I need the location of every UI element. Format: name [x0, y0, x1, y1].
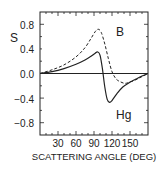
- x-tick-label: 30: [52, 138, 64, 149]
- y-tick-label: 0.4: [20, 44, 34, 55]
- y-tick-label: −0.4: [14, 94, 34, 105]
- x-tick-label: 90: [88, 138, 100, 149]
- x-tick-label: 60: [70, 138, 82, 149]
- series-b-label: B: [116, 25, 124, 39]
- x-tick-label: 120: [104, 138, 121, 149]
- y-tick-label: −0.8: [14, 118, 34, 129]
- y-tick-label: 0.8: [20, 20, 34, 31]
- x-axis-label: SCATTERING ANGLE (DEG): [32, 151, 156, 162]
- series-hg-label: Hg: [116, 108, 131, 122]
- series-b-curve: [40, 29, 148, 83]
- y-axis-label: S: [10, 31, 18, 45]
- x-tick-label: 150: [122, 138, 139, 149]
- series-hg-curve: [40, 52, 148, 103]
- y-tick-label: 0.0: [20, 69, 34, 80]
- scattering-chart: 0.8 0.4 0.0 −0.4 −0.8 S 30 60 90 120 150…: [0, 0, 163, 169]
